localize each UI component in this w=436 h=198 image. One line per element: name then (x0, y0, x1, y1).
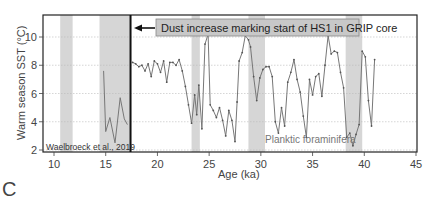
panel-label: C (2, 178, 16, 198)
shaded-band (60, 15, 72, 152)
x-tick-label: 35 (306, 158, 318, 170)
data-series (104, 33, 376, 146)
arrow-head-icon (134, 25, 142, 32)
y-tick-label: 8 (31, 59, 37, 71)
x-axis-label: Age (ka) (218, 168, 260, 180)
annotation: Dust increase marking start of HS1 in GR… (134, 19, 397, 36)
annotation-text: Dust increase marking start of HS1 in GR… (161, 22, 397, 34)
sst-chart: 1015202530354045 246810 Dust increase ma… (0, 0, 436, 198)
y-tick-label: 6 (31, 88, 37, 100)
x-tick-label: 20 (151, 158, 163, 170)
y-axis-label: Warm season SST (°C) (15, 26, 27, 140)
left-series-label: Waelbroeck et al., 2019 (46, 142, 135, 152)
x-tick-label: 25 (203, 158, 215, 170)
x-tick-label: 45 (410, 158, 422, 170)
x-tick-label: 40 (358, 158, 370, 170)
y-tick-label: 2 (31, 144, 37, 156)
y-tick-label: 4 (31, 116, 37, 128)
y-axis-ticks: 246810 (25, 31, 43, 156)
right-series-label: Planktic foraminifera (265, 134, 356, 145)
x-tick-label: 15 (100, 158, 112, 170)
x-tick-label: 10 (48, 158, 60, 170)
